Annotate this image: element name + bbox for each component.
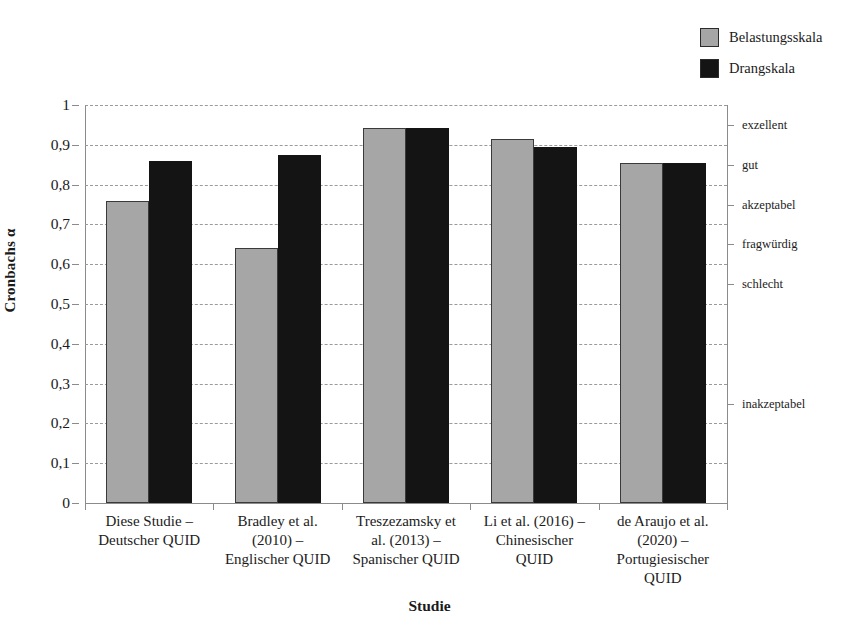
x-category-label-line: Spanischer QUID <box>342 550 470 569</box>
y-tick-mark <box>72 384 79 385</box>
bar[interactable] <box>363 128 406 503</box>
secondary-axis-tick-mark <box>728 284 734 285</box>
y-axis-tick-labels: 10,90,80,70,60,50,40,30,20,10 <box>0 105 78 503</box>
y-tick-mark <box>72 145 79 146</box>
x-tick-mark <box>213 503 214 510</box>
secondary-axis-label: schlecht <box>742 278 783 291</box>
x-tick-mark <box>599 503 600 510</box>
chart-page: { "chart_data": { "type": "bar", "title"… <box>0 0 859 639</box>
y-tick-mark <box>72 224 79 225</box>
secondary-axis-label: exzellent <box>742 119 787 132</box>
x-category-label: Bradley et al.(2010) –Englischer QUID <box>213 512 341 569</box>
bar-group <box>85 105 213 503</box>
secondary-axis-labels: exzellentgutakzeptabelfragwürdigschlecht… <box>728 105 859 503</box>
y-tick-label: 0,7 <box>51 217 70 233</box>
x-category-label-line: QUID <box>470 550 598 569</box>
y-tick-label: 0,1 <box>51 455 70 471</box>
y-tick-label: 0 <box>62 495 70 511</box>
x-category-label-line: Bradley et al. <box>213 512 341 531</box>
x-category-label-line: al. (2013) – <box>342 531 470 550</box>
x-category-label-line: QUID <box>599 569 727 588</box>
bar[interactable] <box>663 163 706 503</box>
y-tick-label: 1 <box>62 97 70 113</box>
secondary-axis-tick-mark <box>728 165 734 166</box>
y-tick-mark <box>72 105 79 106</box>
x-category-label-line: de Araujo et al. <box>599 512 727 531</box>
legend-item[interactable]: Drangskala <box>700 59 822 78</box>
x-category-label-line: Li et al. (2016) – <box>470 512 598 531</box>
x-category-label: de Araujo et al.(2020) –PortugiesischerQ… <box>599 512 727 588</box>
y-tick-label: 0,5 <box>51 296 70 312</box>
y-tick-mark <box>72 185 79 186</box>
bar-group <box>342 105 470 503</box>
bar-group <box>599 105 727 503</box>
bar[interactable] <box>278 155 321 503</box>
y-tick-mark <box>72 503 79 504</box>
x-category-label: Treszezamsky etal. (2013) –Spanischer QU… <box>342 512 470 569</box>
x-category-label-line: Deutscher QUID <box>85 531 213 550</box>
secondary-axis-label: fragwürdig <box>742 238 798 251</box>
x-tick-mark <box>342 503 343 510</box>
bar-group <box>213 105 341 503</box>
x-category-label-line: Diese Studie – <box>85 512 213 531</box>
y-tick-label: 0,2 <box>51 416 70 432</box>
x-category-label-line: Treszezamsky et <box>342 512 470 531</box>
x-axis-title: Studie <box>0 597 859 615</box>
bar[interactable] <box>149 161 192 503</box>
bar[interactable] <box>106 201 149 503</box>
bar[interactable] <box>491 139 534 503</box>
secondary-axis-label: inakzeptabel <box>742 397 805 410</box>
bar[interactable] <box>235 248 278 503</box>
x-axis-tick-labels: Diese Studie –Deutscher QUIDBradley et a… <box>85 512 728 592</box>
y-tick-label: 0,9 <box>51 137 70 153</box>
x-category-label-line: Englischer QUID <box>213 550 341 569</box>
x-category-label-line: (2010) – <box>213 531 341 550</box>
secondary-axis-tick-mark <box>728 404 734 405</box>
x-category-label: Li et al. (2016) –ChinesischerQUID <box>470 512 598 569</box>
secondary-axis-tick-mark <box>728 205 734 206</box>
bar[interactable] <box>534 147 577 503</box>
legend-item-label: Drangskala <box>729 61 795 76</box>
bar[interactable] <box>406 128 449 503</box>
y-tick-label: 0,6 <box>51 256 70 272</box>
x-category-label-line: (2020) – <box>599 531 727 550</box>
y-tick-mark <box>72 264 79 265</box>
bar-series-container <box>85 105 727 503</box>
legend-swatch-1 <box>700 59 719 78</box>
bar-group <box>470 105 598 503</box>
y-tick-mark <box>72 423 79 424</box>
chart-legend: BelastungsskalaDrangskala <box>700 28 822 78</box>
plot-area <box>85 105 727 503</box>
legend-item[interactable]: Belastungsskala <box>700 28 822 47</box>
x-tick-mark <box>727 503 728 510</box>
x-tick-mark <box>85 503 86 510</box>
bar[interactable] <box>620 163 663 503</box>
x-category-label: Diese Studie –Deutscher QUID <box>85 512 213 550</box>
x-category-label-line: Chinesischer <box>470 531 598 550</box>
secondary-axis-label: akzeptabel <box>742 198 795 211</box>
x-category-label-line: Portugiesischer <box>599 550 727 569</box>
y-tick-label: 0,4 <box>51 336 70 352</box>
x-axis-line <box>85 503 728 504</box>
legend-item-label: Belastungsskala <box>729 30 822 45</box>
secondary-axis-label: gut <box>742 158 758 171</box>
secondary-axis-tick-mark <box>728 125 734 126</box>
x-tick-mark <box>470 503 471 510</box>
y-tick-mark <box>72 304 79 305</box>
y-tick-mark <box>72 463 79 464</box>
y-tick-mark <box>72 344 79 345</box>
y-tick-label: 0,8 <box>51 177 70 193</box>
legend-swatch-0 <box>700 28 719 47</box>
y-tick-label: 0,3 <box>51 376 70 392</box>
secondary-axis-tick-mark <box>728 244 734 245</box>
